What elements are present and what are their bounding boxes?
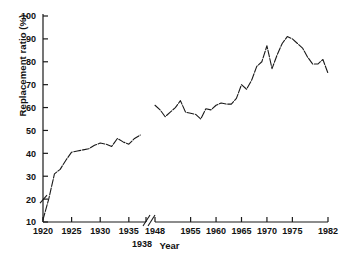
x-tick-group: 1920192519301935194819551960196519701975… (33, 217, 338, 236)
x-tick-label-1930: 1930 (90, 226, 110, 236)
axes-group (43, 14, 328, 222)
x-axis-title: Year (0, 240, 339, 251)
x-tick-label-1925: 1925 (62, 226, 82, 236)
x-tick-label-1960: 1960 (206, 226, 226, 236)
x-tick-label-1948: 1948 (145, 226, 165, 236)
chart-container: 102030405060708090100 192019251930193519… (0, 0, 339, 264)
y-tick-label-30: 30 (26, 172, 36, 182)
x-tick-label-1935: 1935 (119, 226, 139, 236)
y-tick-label-20: 20 (26, 195, 36, 205)
data-series-group (43, 37, 328, 220)
x-tick-label-1965: 1965 (231, 226, 251, 236)
line-chart-plot: 102030405060708090100 192019251930193519… (0, 0, 339, 264)
x-tick-label-1955: 1955 (181, 226, 201, 236)
x-tick-label-1920: 1920 (33, 226, 53, 236)
series-line-prewar (43, 135, 140, 220)
x-tick-label-1982: 1982 (318, 226, 338, 236)
x-tick-label-1970: 1970 (257, 226, 277, 236)
series-line-postwar (155, 37, 328, 119)
x-tick-label-1975: 1975 (282, 226, 302, 236)
axis-break-marker (40, 195, 155, 226)
y-axis-title: Replacement ratio (%) (17, 0, 28, 146)
y-tick-label-40: 40 (26, 149, 36, 159)
x-tick-label-1938: 1938 (132, 239, 152, 249)
